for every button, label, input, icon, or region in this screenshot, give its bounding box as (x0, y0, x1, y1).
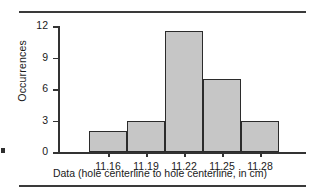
page-edge-mark (1, 148, 5, 153)
y-tick-label-3: 3 (42, 114, 48, 127)
y-tick-3: 3 (53, 121, 59, 123)
y-tick-0: 0 (53, 152, 59, 154)
y-axis-title: Occurrences (16, 40, 28, 102)
x-tick-11-16 (108, 152, 110, 157)
top-divider-rule (19, 11, 306, 13)
x-axis-title: Data (hole centerline to hole centerline… (0, 167, 320, 180)
bar-11-28 (241, 121, 279, 153)
y-tick-6: 6 (53, 89, 59, 91)
histogram-figure: Occurrences 0 3 6 9 12 11.16 (0, 0, 320, 195)
y-tick-12: 12 (53, 26, 59, 28)
y-tick-label-0: 0 (42, 145, 48, 158)
x-axis-line (58, 152, 306, 154)
plot-area: 0 3 6 9 12 11.16 11.19 11.22 11.25 11.28 (58, 26, 306, 152)
bar-11-25 (203, 79, 241, 153)
x-tick-11-22 (184, 152, 186, 157)
bar-11-19 (127, 121, 165, 153)
bar-11-22 (165, 31, 203, 152)
y-tick-label-6: 6 (42, 82, 48, 95)
x-tick-11-25 (222, 152, 224, 157)
y-tick-9: 9 (53, 58, 59, 60)
x-tick-11-19 (146, 152, 148, 157)
bottom-divider-rule (19, 185, 306, 187)
y-tick-label-9: 9 (42, 51, 48, 64)
x-tick-11-28 (260, 152, 262, 157)
y-tick-label-12: 12 (36, 19, 48, 32)
bar-11-16 (89, 131, 127, 152)
